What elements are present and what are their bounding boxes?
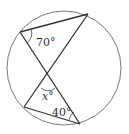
inscribed-angle-diagram: 70° x° 40° — [0, 0, 129, 134]
angle-label-x: x° — [42, 90, 54, 103]
angle-label-40: 40° — [52, 106, 72, 119]
angle-arc-top — [27, 29, 32, 43]
angle-label-70: 70° — [36, 36, 56, 49]
